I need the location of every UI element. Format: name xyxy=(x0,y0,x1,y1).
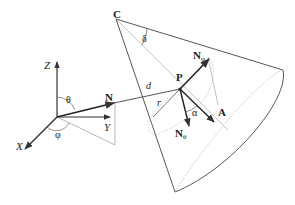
n-theta-vector xyxy=(180,89,189,126)
cone-rim-front xyxy=(175,70,284,192)
y-axis-label: Y xyxy=(104,121,112,133)
theta-label: θ xyxy=(66,94,71,105)
cone-bottom-edge xyxy=(116,19,175,192)
section-right-line xyxy=(208,57,218,105)
normal-vector-label: N xyxy=(105,91,113,103)
cone-geometry-diagram: Z Y X θ φ N d C δ P Nφ r α Nθ A xyxy=(0,0,295,205)
cross-section-ellipse xyxy=(148,57,213,135)
n-phi-subscript: φ xyxy=(201,55,205,63)
n-phi-label: Nφ xyxy=(193,49,205,63)
n-theta-subscript: θ xyxy=(183,133,187,141)
delta-label: δ xyxy=(142,33,147,44)
n-phi-vector xyxy=(180,59,209,89)
point-p-label: P xyxy=(176,71,183,83)
x-axis xyxy=(25,117,57,149)
x-axis-label: X xyxy=(15,140,24,152)
cone xyxy=(116,19,284,192)
normal-vector-n xyxy=(57,103,114,117)
cone-top-edge xyxy=(116,19,283,70)
cone-rim-back xyxy=(175,70,283,192)
apex-label: C xyxy=(113,8,121,20)
z-axis-label: Z xyxy=(44,59,51,71)
distance-line-d xyxy=(114,89,180,103)
radius-label: r xyxy=(157,97,161,108)
alpha-label: α xyxy=(192,107,198,118)
n-theta-label: Nθ xyxy=(175,127,187,141)
a-vector-label: A xyxy=(218,106,226,118)
point-p-dot xyxy=(178,87,181,90)
distance-label: d xyxy=(146,80,152,91)
phi-label: φ xyxy=(55,129,61,140)
